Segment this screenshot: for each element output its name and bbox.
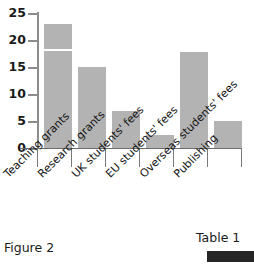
table-header-block — [207, 251, 254, 262]
x-axis-separator-3 — [139, 148, 140, 167]
bar-chart-figure: 25 20 15 10 5 0 Teaching grants Research… — [0, 0, 254, 264]
y-tick-mark-5 — [28, 121, 37, 123]
bar-teaching-grants — [44, 24, 72, 148]
bar-uk-students-fees — [112, 111, 140, 148]
bar-internal-divider-line — [44, 49, 72, 51]
x-axis-separator-4 — [173, 148, 174, 167]
y-tick-mark-20 — [28, 40, 37, 42]
y-tick-label-5: 5 — [0, 115, 26, 128]
x-axis-separator-0 — [37, 148, 38, 167]
x-axis-separator-1 — [71, 148, 72, 167]
x-axis-separator-6 — [241, 148, 242, 167]
x-axis-separator-5 — [207, 148, 208, 167]
bar-eu-students-fees — [146, 135, 174, 149]
plot-area — [38, 13, 238, 148]
bar-publishing — [214, 121, 242, 148]
y-tick-mark-25 — [28, 13, 37, 15]
figure-caption: Figure 2 — [4, 242, 54, 255]
y-tick-label-10: 10 — [0, 88, 26, 101]
y-tick-label-20: 20 — [0, 34, 26, 47]
table-caption: Table 1 — [196, 232, 240, 245]
bar-overseas-students-fees — [180, 52, 208, 148]
y-tick-mark-10 — [28, 94, 37, 96]
y-tick-mark-15 — [28, 67, 37, 69]
y-tick-label-25: 25 — [0, 7, 26, 20]
x-axis-separator-2 — [105, 148, 106, 167]
y-tick-label-15: 15 — [0, 61, 26, 74]
bar-research-grants — [78, 67, 106, 148]
